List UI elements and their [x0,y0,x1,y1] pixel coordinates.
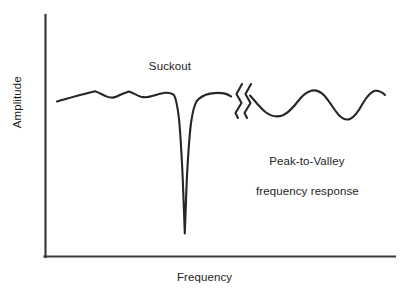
suckout-annotation: Suckout [0,59,340,74]
peak-to-valley-annotation-line1: Peak-to-Valley [269,155,344,167]
peak-to-valley-annotation-line2: frequency response [256,184,406,199]
y-axis-label: Amplitude [0,120,40,142]
peak-to-valley-annotation: Peak-to-Valley frequency response [256,139,406,229]
axis-break-mark-right [245,84,252,118]
x-axis-label: Frequency [0,270,409,285]
frequency-response-figure: Amplitude Frequency Suckout Peak-to-Vall… [0,0,409,307]
axis-break-mark-left [236,84,243,118]
y-axis-label-text: Amplitude [10,76,25,128]
response-curve-right [250,90,385,119]
response-curve-left [57,91,231,233]
